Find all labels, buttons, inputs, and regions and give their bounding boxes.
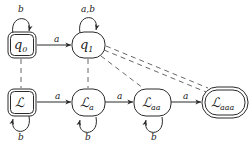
La-sub: a [89,103,94,112]
svg-text:ℒ: ℒ [15,95,25,110]
node-q1: q1 [72,32,105,58]
node-L: ℒ [8,89,36,116]
automaton-diagram: q0 q1 ℒ ℒa ℒaa ℒaaa b a,b a a a a b b b [0,0,251,143]
label-loop-q0: b [18,4,24,14]
label-edge-Laa-Laaa: a [183,91,188,101]
loop-L [13,116,30,131]
q1-sub: 1 [88,45,93,54]
dashed-q1-Laa [101,56,143,88]
loop-La [80,117,97,132]
q0-main: q [14,37,22,52]
label-edge-L-La: a [55,91,60,101]
correspondence-lines [21,46,208,92]
q1-main: q [80,37,88,52]
node-Laaa: ℒaaa [202,87,248,118]
node-La: ℒa [72,89,105,116]
node-q0: q0 [8,32,36,58]
loop-Laa [146,117,163,132]
label-loop-Laa: b [151,132,157,142]
double-dashed-q1-Laaa-b [106,46,208,88]
label-edge-La-Laa: a [117,91,122,101]
label-loop-q1: a,b [81,4,95,14]
node-Laa: ℒaa [134,89,171,116]
loop-q1 [80,18,97,33]
L-main: ℒ [15,95,25,110]
q0-sub: 0 [22,45,27,54]
double-dashed-q1-Laaa-a [104,50,206,92]
label-edge-q0-q1: a [54,34,59,44]
label-loop-L: b [18,132,24,142]
Laa-sub: aa [151,103,161,112]
label-loop-La: b [85,132,91,142]
Laaa-sub: aaa [220,103,235,112]
